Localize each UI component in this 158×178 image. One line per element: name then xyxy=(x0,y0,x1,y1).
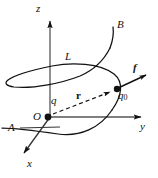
position-vector-r xyxy=(53,92,110,114)
curve-start-guide-line xyxy=(20,127,60,128)
force-vector-label: f xyxy=(133,62,137,73)
test-charge-subscript: 0 xyxy=(124,93,128,102)
position-vector-label: r xyxy=(76,90,81,101)
origin-charge-dot xyxy=(45,114,52,121)
field-line-label: L xyxy=(65,51,71,62)
x-axis-label: x xyxy=(27,158,32,169)
test-charge-label: q0 xyxy=(118,90,128,102)
curve-start-label-a: A xyxy=(8,122,15,133)
source-charge-label: q xyxy=(51,95,57,106)
x-axis xyxy=(24,117,50,153)
z-axis-label: z xyxy=(36,3,40,14)
force-vector-f xyxy=(116,75,146,89)
physics-vector-diagram: z y x O q q0 r f L A B xyxy=(0,0,158,178)
y-axis-label: y xyxy=(140,121,145,132)
origin-label: O xyxy=(33,111,41,122)
curve-end-label-b: B xyxy=(117,19,124,30)
field-line-curve xyxy=(2,27,121,135)
